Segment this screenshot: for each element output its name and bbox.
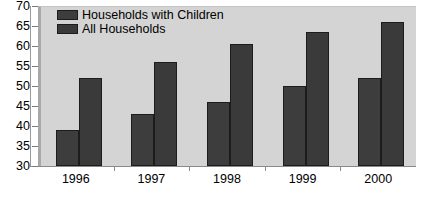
y-axis-tick-mark (32, 146, 38, 147)
y-axis-tick-mark (32, 166, 38, 167)
y-axis-tick-mark (32, 106, 38, 107)
y-axis-tick-label: 60 (4, 41, 30, 51)
y-axis-tick-mark (32, 6, 38, 7)
x-axis-separator (189, 166, 190, 171)
y-axis-tick-label: 40 (4, 121, 30, 131)
x-axis-separator (114, 166, 115, 171)
bar-2000-series-1 (381, 22, 404, 166)
y-axis-tick-mark (32, 66, 38, 67)
y-axis: 303540455055606570 (0, 0, 30, 201)
y-axis-line (30, 6, 31, 167)
bar-1996-series-1 (79, 78, 102, 166)
y-axis-tick-mark (32, 26, 38, 27)
x-axis-tick-label: 1999 (265, 172, 341, 186)
legend-swatch-households-with-children (57, 10, 78, 20)
x-axis-tick-label: 1997 (114, 172, 190, 186)
y-axis-tick-mark (32, 126, 38, 127)
bar-1997-series-1 (154, 62, 177, 166)
y-axis-tick-mark (32, 86, 38, 87)
bar-1998-series-1 (230, 44, 253, 166)
legend-item: Households with Children (57, 8, 224, 21)
legend-item: All Households (57, 22, 224, 35)
legend-label: All Households (82, 23, 165, 35)
y-axis-tick-label: 30 (4, 161, 30, 171)
x-axis-tick-label: 1998 (189, 172, 265, 186)
bar-1999-series-0 (283, 86, 306, 166)
bottom-cutoff-sliver (0, 196, 426, 201)
bar-2000-series-0 (358, 78, 381, 166)
y-axis-tick-label: 50 (4, 81, 30, 91)
x-axis-tick-label: 1996 (38, 172, 114, 186)
legend-swatch-all-households (57, 24, 78, 34)
y-axis-tick-label: 45 (4, 101, 30, 111)
x-axis-line (30, 166, 416, 167)
legend: Households with ChildrenAll Households (57, 8, 224, 35)
y-axis-tick-mark (32, 46, 38, 47)
bar-1999-series-1 (306, 32, 329, 166)
bar-group (358, 7, 404, 166)
bar-1997-series-0 (131, 114, 154, 166)
y-axis-tick-label: 65 (4, 21, 30, 31)
bar-1996-series-0 (56, 130, 79, 166)
y-axis-tick-label: 35 (4, 141, 30, 151)
x-axis-tick-label: 2000 (340, 172, 416, 186)
y-axis-tick-label: 55 (4, 61, 30, 71)
bar-chart: 303540455055606570 Households with Child… (0, 0, 426, 201)
x-axis-separator (340, 166, 341, 171)
y-axis-tick-label: 70 (4, 1, 30, 11)
legend-label: Households with Children (82, 9, 224, 21)
x-axis-separator (265, 166, 266, 171)
bar-1998-series-0 (207, 102, 230, 166)
bar-group (283, 7, 329, 166)
